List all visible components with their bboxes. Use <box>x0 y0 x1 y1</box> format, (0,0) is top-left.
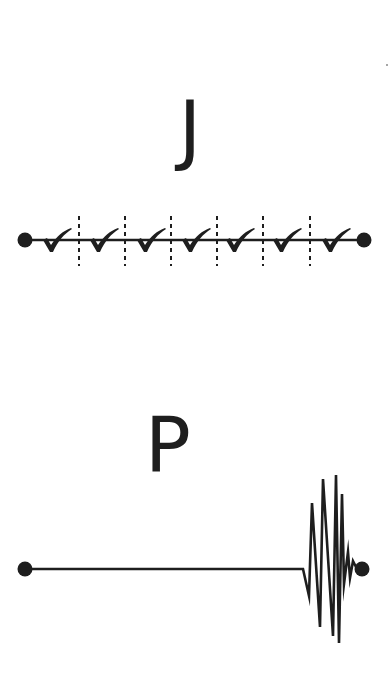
end-dot-icon <box>357 233 372 248</box>
oscillation-waveform <box>25 475 362 643</box>
panel-j-timeline <box>18 216 372 266</box>
stray-dot <box>386 64 388 66</box>
end-dot-icon <box>355 562 370 577</box>
diagram-canvas <box>0 0 392 684</box>
panel-p-timeline <box>18 475 370 643</box>
start-dot-icon <box>18 233 33 248</box>
panel-p-label: P <box>128 408 208 484</box>
